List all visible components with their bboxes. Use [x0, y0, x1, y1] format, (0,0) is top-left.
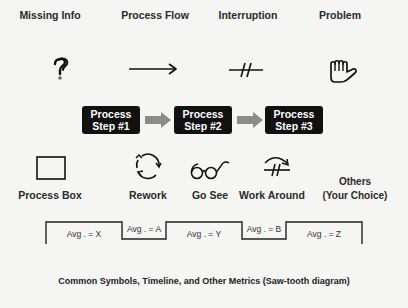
- step-arrow-icon: [237, 112, 263, 128]
- work-around-label: Work Around: [239, 189, 305, 202]
- rework-label: Rework: [129, 189, 167, 202]
- your-choice-label: (Your Choice): [323, 189, 388, 202]
- square-box-icon: [36, 156, 66, 180]
- process-step-3-line1: Process: [265, 108, 323, 121]
- interruption-icon: [228, 61, 264, 79]
- sawtooth-segment-x: Avg . = X: [67, 229, 102, 239]
- go-see-label: Go See: [192, 189, 228, 202]
- process-step-1-line1: Process: [82, 108, 140, 121]
- sawtooth-segment-z: Avg . = Z: [307, 229, 341, 239]
- process-step-1-line2: Step #1: [82, 120, 140, 133]
- question-mark-icon: [50, 56, 72, 82]
- arrow-right-icon: [128, 62, 180, 76]
- problem-label: Problem: [319, 9, 361, 22]
- process-step-2-line2: Step #2: [174, 120, 232, 133]
- circular-arrows-icon: [133, 152, 163, 182]
- step-arrow-icon: [145, 112, 171, 128]
- process-flow-label: Process Flow: [121, 9, 189, 22]
- work-around-icon: [262, 154, 294, 178]
- sawtooth-segment-y: Avg . = Y: [187, 229, 221, 239]
- process-step-3: Process Step #3: [265, 106, 323, 134]
- missing-info-label: Missing Info: [19, 9, 80, 22]
- process-step-2-line1: Process: [174, 108, 232, 121]
- process-step-3-line2: Step #3: [265, 120, 323, 133]
- process-box-label: Process Box: [18, 189, 82, 202]
- process-step-1: Process Step #1: [82, 106, 140, 134]
- process-step-2: Process Step #2: [174, 106, 232, 134]
- sawtooth-segment-b: Avg . = B: [247, 224, 282, 234]
- sawtooth-segment-a: Avg . = A: [127, 224, 161, 234]
- hand-stop-icon: [328, 58, 358, 84]
- eyeglasses-icon: [190, 158, 230, 180]
- figure-caption: Common Symbols, Timeline, and Other Metr…: [58, 276, 349, 286]
- interruption-label: Interruption: [219, 9, 278, 22]
- others-label: Others: [339, 175, 371, 188]
